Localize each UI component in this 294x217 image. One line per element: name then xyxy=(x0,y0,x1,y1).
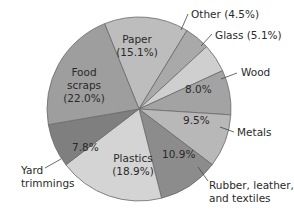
label-rubber-value: 10.9% xyxy=(162,148,195,160)
label-other: Other (4.5%) xyxy=(191,8,259,20)
label-wood-name: Wood xyxy=(241,66,270,78)
pie-chart: Paper(15.1%) Other (4.5%) Glass (5.1%) W… xyxy=(0,0,294,217)
label-yard-value: 7.8% xyxy=(72,141,99,153)
label-metals-value: 9.5% xyxy=(183,114,210,126)
label-glass: Glass (5.1%) xyxy=(215,29,282,41)
leader-yard xyxy=(45,159,61,168)
label-metals-name: Metals xyxy=(237,126,271,138)
label-yard-name: Yardtrimmings xyxy=(20,164,75,189)
label-paper: Paper(15.1%) xyxy=(116,33,158,58)
label-plastics: Plastics(18.9%) xyxy=(112,152,154,177)
leader-other xyxy=(181,14,188,30)
label-rubber-name: Rubber, leather,and textiles xyxy=(209,179,294,204)
leader-glass xyxy=(201,34,212,46)
label-wood-value: 8.0% xyxy=(185,83,212,95)
